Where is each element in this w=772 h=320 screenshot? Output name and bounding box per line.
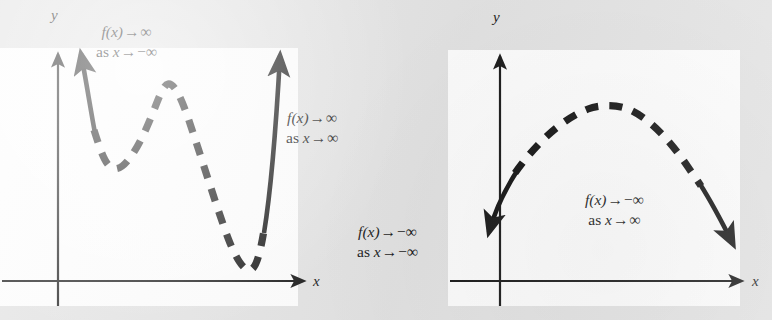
r2-left-end-as-text: as [357, 243, 370, 260]
r2-left-end-variable-text: x [374, 243, 381, 260]
right-panel-x-axis-label: x [752, 274, 759, 289]
left-panel-left-branch-arrow [81, 54, 95, 133]
r2-left-end-limit-value: −∞ [397, 223, 417, 240]
r2-left-end-arrow-icon: → [380, 223, 398, 240]
right-end-fx-text: f(x) [287, 109, 309, 126]
right-end-approach-arrow-icon: → [310, 129, 328, 146]
right-panel-right-end-behavior-label: f(x)→−∞ as x→∞ [585, 190, 644, 230]
left-end-arrow-icon: → [123, 23, 141, 40]
left-panel-left-end-behavior-label: f(x)→∞ as x→−∞ [96, 22, 157, 62]
polynomial-end-behavior-figure: y x f(x)→∞ as x→−∞ f(x)→∞ as x→∞ y x f(x… [0, 0, 772, 320]
left-end-fx-text: f(x) [101, 23, 123, 40]
right-end-approach-value: ∞ [327, 129, 338, 146]
right-panel-curve-dashed [515, 106, 701, 186]
r2-right-end-fx-text: f(x) [585, 191, 607, 208]
left-panel-x-axis-label: x [313, 274, 320, 289]
left-end-limit-value: ∞ [140, 23, 151, 40]
r2-left-end-approach-value: −∞ [398, 243, 418, 260]
left-panel-right-end-behavior-label: f(x)→∞ as x→∞ [286, 108, 338, 148]
right-end-arrow-icon: → [309, 109, 327, 126]
r2-right-end-limit-value: −∞ [624, 191, 644, 208]
left-end-variable-text: x [113, 43, 120, 60]
r2-left-end-fx-text: f(x) [358, 223, 380, 240]
left-panel-axes [2, 54, 304, 306]
right-panel-left-end-behavior-label: f(x)→−∞ as x→−∞ [357, 222, 418, 262]
right-panel-left-branch-arrow [489, 171, 517, 232]
r2-right-end-variable-text: x [605, 211, 612, 228]
right-end-as-text: as [286, 129, 299, 146]
r2-right-end-approach-value: ∞ [629, 211, 640, 228]
right-panel-right-branch-arrow [700, 184, 733, 244]
r2-right-end-as-text: as [588, 211, 601, 228]
left-panel-right-branch-arrow [264, 56, 280, 233]
left-end-as-text: as [96, 43, 109, 60]
left-panel-curve-dashed [94, 84, 264, 270]
left-panel-curve [81, 54, 280, 270]
right-end-limit-value: ∞ [326, 109, 337, 126]
right-end-variable-text: x [303, 129, 310, 146]
left-end-approach-arrow-icon: → [120, 43, 138, 60]
r2-right-end-approach-arrow-icon: → [612, 211, 630, 228]
r2-right-end-arrow-icon: → [607, 191, 625, 208]
left-end-approach-value: −∞ [137, 43, 157, 60]
left-panel-y-axis-label: y [51, 8, 58, 23]
r2-left-end-approach-arrow-icon: → [381, 243, 399, 260]
right-panel-y-axis-label: y [493, 10, 500, 25]
